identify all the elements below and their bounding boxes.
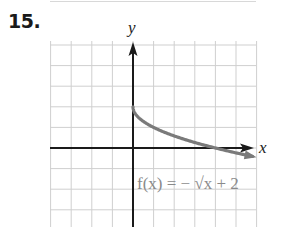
curve-arrowhead-icon xyxy=(244,150,257,159)
grid xyxy=(50,41,257,227)
x-axis-label: x xyxy=(258,138,267,157)
function-graph: y x f(x) = − √x + 2 xyxy=(0,0,283,227)
function-equation-label: f(x) = − √x + 2 xyxy=(137,174,239,193)
y-axis-label: y xyxy=(126,18,136,37)
axes xyxy=(50,42,254,227)
